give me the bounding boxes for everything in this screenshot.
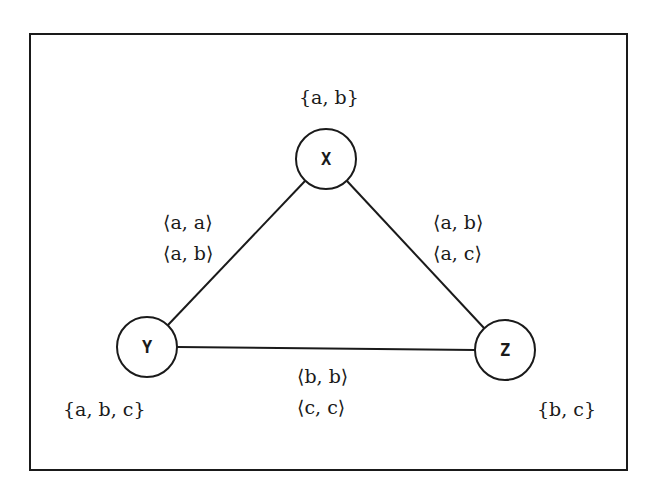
edge-x-y-constraints: ⟨a, a⟩ ⟨a, b⟩ bbox=[163, 207, 213, 269]
constraint-pair: ⟨c, c⟩ bbox=[297, 392, 348, 423]
constraint-pair: ⟨a, b⟩ bbox=[433, 207, 483, 238]
node-x-domain: {a, b} bbox=[299, 88, 359, 107]
constraint-pair: ⟨a, c⟩ bbox=[433, 238, 483, 269]
node-z-domain: {b, c} bbox=[537, 400, 596, 419]
edge-y-z-constraints: ⟨b, b⟩ ⟨c, c⟩ bbox=[297, 361, 348, 423]
edge-x-z-constraints: ⟨a, b⟩ ⟨a, c⟩ bbox=[433, 207, 483, 269]
constraint-pair: ⟨a, b⟩ bbox=[163, 238, 213, 269]
diagram-canvas: X Y Z {a, b} {a, b, c} {b, c} ⟨a, a⟩ ⟨a,… bbox=[0, 0, 648, 497]
node-z-label: Z bbox=[475, 342, 535, 359]
node-y-domain: {a, b, c} bbox=[63, 400, 145, 419]
constraint-pair: ⟨b, b⟩ bbox=[297, 361, 348, 392]
node-x-label: X bbox=[296, 151, 356, 168]
constraint-pair: ⟨a, a⟩ bbox=[163, 207, 213, 238]
node-y-label: Y bbox=[117, 339, 177, 356]
edge-y-z bbox=[177, 347, 475, 350]
